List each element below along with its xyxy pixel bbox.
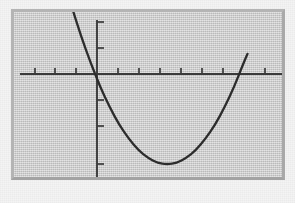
parabola-curve bbox=[62, 12, 248, 164]
screenshot-root bbox=[0, 0, 295, 203]
graph-canvas bbox=[14, 12, 282, 177]
graph-frame bbox=[11, 9, 285, 180]
plot-area bbox=[14, 12, 282, 177]
